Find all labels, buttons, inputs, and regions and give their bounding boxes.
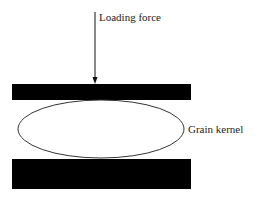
bottom-compression-plate xyxy=(12,159,191,189)
loading-force-arrow-icon xyxy=(93,12,98,84)
grain-kernel-label: Grain kernel xyxy=(188,124,243,135)
top-compression-plate xyxy=(12,84,191,100)
grain-kernel-shape xyxy=(18,100,184,158)
compression-diagram: Loading force Grain kernel xyxy=(0,0,255,197)
loading-force-label: Loading force xyxy=(99,12,161,23)
diagram-canvas xyxy=(0,0,255,197)
